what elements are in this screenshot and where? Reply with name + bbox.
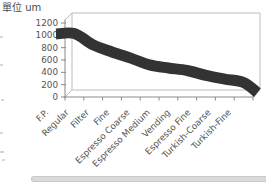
left-edge-artifact <box>2 159 5 161</box>
left-edge-artifact <box>0 132 3 134</box>
x-category-label: F.P. <box>34 107 50 123</box>
wall-edge-bottom-left <box>65 90 72 97</box>
left-edge-artifact <box>0 64 3 66</box>
y-axis-tick-labels: 120010008006004002000 <box>36 18 59 102</box>
left-edge-artifact <box>0 36 3 38</box>
grind-size-ribbon-chart: 120010008006004002000 F.P.RegularFilterF… <box>0 0 266 183</box>
y-tick-label: 200 <box>41 80 58 90</box>
chart-axes <box>61 20 254 101</box>
grind-size-ribbon <box>56 33 258 93</box>
x-axis-category-labels: F.P.RegularFilterFineEspresso CoarseEspr… <box>34 107 233 169</box>
chart-panel: 單位 um 120010008006004002000 F.P.RegularF… <box>0 0 266 183</box>
y-tick-label: 1000 <box>36 30 59 40</box>
x-category-label: Filter <box>69 107 92 130</box>
y-tick-label: 600 <box>41 55 58 65</box>
y-tick-label: 0 <box>52 92 58 102</box>
y-tick-label: 400 <box>41 67 58 77</box>
wall-edge-top-left <box>65 13 72 20</box>
horizontal-scrollbar[interactable] <box>31 176 266 182</box>
data-ribbon-series <box>56 33 258 93</box>
y-tick-label: 800 <box>41 43 58 53</box>
y-tick-label: 1200 <box>36 18 59 28</box>
left-edge-artifact <box>0 151 4 153</box>
left-edge-artifact <box>1 99 4 101</box>
